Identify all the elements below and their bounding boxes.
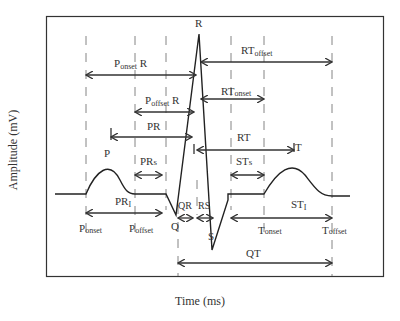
label-rtoffset: RToffset bbox=[241, 44, 273, 58]
label-pri: PRI bbox=[115, 195, 131, 209]
plot-frame bbox=[47, 17, 384, 277]
wave-label-t: T bbox=[295, 141, 302, 153]
label-qt: QT bbox=[246, 247, 261, 259]
label-rt: RT bbox=[237, 131, 251, 143]
wave-label-r: R bbox=[195, 17, 203, 29]
marker-toffset: Toffset bbox=[322, 224, 348, 236]
x-axis-label: Time (ms) bbox=[0, 294, 400, 309]
label-pr: PR bbox=[147, 120, 161, 132]
label-prs: PRs bbox=[140, 155, 157, 167]
ecg-diagram: R P Q S T Ponset R Poffset R PR PRs PRI … bbox=[0, 0, 400, 321]
marker-poffset: Poffset bbox=[129, 222, 154, 235]
label-ponset-r: Ponset R bbox=[114, 57, 148, 71]
marker-ponset: Ponset bbox=[79, 222, 103, 235]
label-sts: STs bbox=[236, 155, 253, 167]
label-poffset-r: Poffset R bbox=[145, 94, 180, 108]
wave-label-s: S bbox=[208, 230, 214, 242]
label-rs: RS bbox=[198, 200, 210, 211]
label-qr: QR bbox=[178, 200, 192, 211]
marker-tonset: Tonset bbox=[258, 224, 282, 236]
wave-label-q: Q bbox=[171, 220, 179, 232]
wave-label-p: P bbox=[104, 147, 110, 159]
label-sti: STI bbox=[291, 198, 307, 212]
label-rtonset: RTonset bbox=[221, 85, 252, 98]
y-axis-label: Amplitude (mV) bbox=[6, 90, 21, 210]
